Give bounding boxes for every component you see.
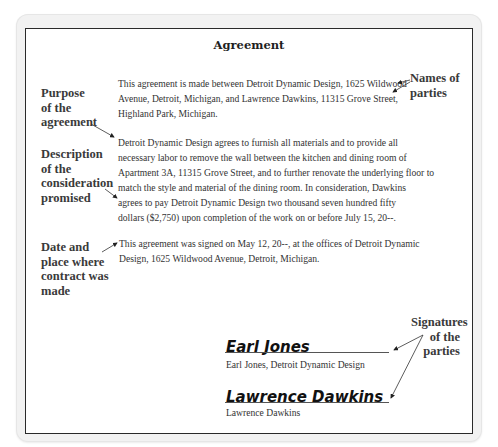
annotation-signatures: Signatures of the parties [411,315,460,359]
signature-caption-earl-jones: Earl Jones, Detroit Dynamic Design [226,359,365,370]
paragraph-date-place: This agreement was signed on May 12, 20-… [119,236,420,266]
annotation-purpose: Purpose of the agreement [41,86,97,130]
paragraph-parties: This agreement is made between Detroit D… [118,76,407,121]
signature-earl-jones: Earl Jones [226,338,310,356]
signature-lawrence-dawkins: Lawrence Dawkins [226,388,383,406]
annotation-names-of-parties: Names of parties [410,71,460,100]
signature-line [225,402,389,403]
signature-line [225,352,389,353]
document-title: Agreement [0,38,498,52]
paragraph-consideration: Detroit Dynamic Design agrees to furnish… [118,135,434,225]
signature-caption-lawrence-dawkins: Lawrence Dawkins [226,407,300,418]
annotation-consideration: Description of the consideration promise… [41,147,113,205]
annotation-date-place: Date and place where contract was made [41,240,109,298]
